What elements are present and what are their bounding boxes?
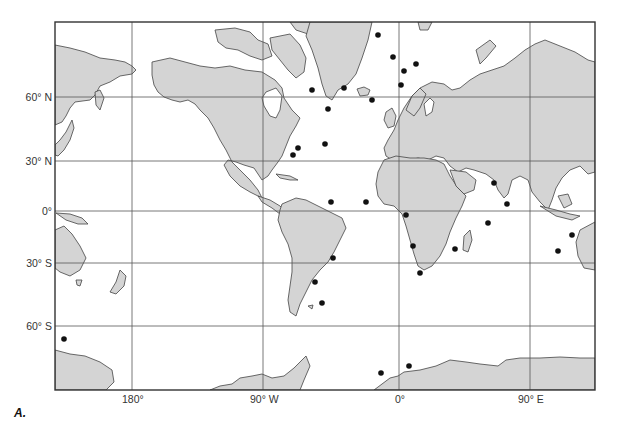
sample-point	[406, 363, 412, 369]
sample-point	[485, 220, 491, 226]
sample-point	[410, 243, 416, 249]
sample-point	[403, 212, 409, 218]
sample-point	[398, 82, 404, 88]
sample-point	[401, 68, 407, 74]
lon-label-0: 0°	[395, 393, 405, 405]
land-svalbard	[418, 22, 432, 30]
lon-label-180: 180°	[122, 393, 144, 405]
land-antarctica-east	[374, 357, 595, 390]
land-canadian-arctic-islands	[215, 28, 272, 60]
lat-label-0: 0°	[4, 205, 52, 217]
sample-point	[330, 255, 336, 261]
sample-point	[491, 180, 497, 186]
sample-point	[61, 336, 67, 342]
land-new-guinea	[56, 213, 88, 224]
land-new-zealand	[110, 270, 126, 294]
sample-point	[417, 270, 423, 276]
lon-label-90w: 90° W	[250, 393, 279, 405]
land-baffin	[270, 34, 306, 78]
land-madagascar	[463, 230, 472, 252]
land-cuba	[276, 174, 298, 180]
land-south-america	[278, 198, 346, 316]
land-antarctica-west	[55, 350, 114, 390]
land-novaya-zemlya	[476, 40, 496, 64]
sample-point	[328, 199, 334, 205]
lat-label-60s: 60° S	[4, 320, 52, 332]
sample-point	[322, 141, 328, 147]
sample-point	[309, 87, 315, 93]
sample-point	[452, 246, 458, 252]
land-iceland	[357, 87, 370, 96]
world-map	[0, 0, 617, 426]
sample-point	[363, 199, 369, 205]
lat-label-60n: 60° N	[4, 91, 52, 103]
sample-point	[504, 201, 510, 207]
land-australia-east	[55, 226, 86, 276]
sample-point	[413, 61, 419, 67]
sample-point	[369, 97, 375, 103]
lat-label-30s: 30° S	[4, 257, 52, 269]
sample-point	[555, 248, 561, 254]
land-antarctica-pacific	[210, 356, 310, 390]
sample-point	[378, 370, 384, 376]
land-falklands	[308, 305, 313, 309]
sample-point	[295, 145, 301, 151]
figure-caption: A.	[14, 406, 26, 420]
land-kamchatka-kuriles	[95, 90, 104, 110]
land-north-america	[152, 58, 300, 198]
sample-point	[375, 32, 381, 38]
land-japan	[55, 120, 74, 156]
sample-point	[319, 300, 325, 306]
sample-point	[325, 106, 331, 112]
land-tasmania	[76, 280, 82, 286]
sample-point	[390, 54, 396, 60]
land-indonesia	[540, 206, 580, 220]
sample-point	[290, 152, 296, 158]
land-borneo	[558, 194, 572, 208]
sample-point	[341, 85, 347, 91]
land-layer	[55, 22, 595, 390]
lat-label-30n: 30° N	[4, 155, 52, 167]
sample-point	[569, 232, 575, 238]
land-british-isles	[384, 108, 396, 128]
lon-label-90e: 90° E	[518, 393, 544, 405]
sample-point	[312, 279, 318, 285]
land-east-siberia	[55, 45, 136, 125]
